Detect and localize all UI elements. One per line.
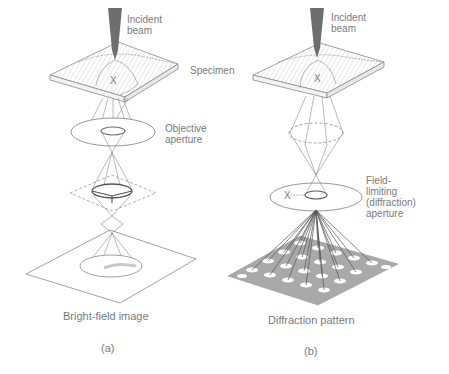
panel-a: .	[26, 8, 196, 303]
field-limiting-aperture-label: Field- limiting (diffraction) aperture	[366, 175, 416, 219]
x-mark-aperture-b: X	[284, 190, 291, 201]
panel-b-caption: (b)	[304, 345, 317, 357]
panel-a-caption: (a)	[101, 342, 114, 354]
x-mark-specimen-b: X	[314, 73, 321, 84]
objective-aperture-label: Objective aperture	[165, 123, 207, 145]
bright-field-image-title: Bright-field image	[63, 310, 149, 322]
incident-beam-label-a: Incident beam	[127, 14, 162, 36]
x-mark-specimen-a: X	[110, 75, 117, 86]
specimen-label: Specimen	[190, 65, 234, 76]
incident-beam-label-b: Incident beam	[331, 12, 366, 34]
diffraction-pattern-title: Diffraction pattern	[268, 314, 355, 326]
panel-b	[228, 8, 398, 305]
